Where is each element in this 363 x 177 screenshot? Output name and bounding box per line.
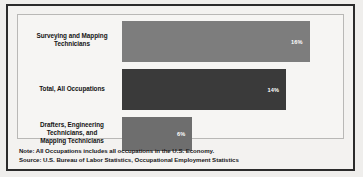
plot-area: Surveying and Mapping Technicians 16% To… (17, 14, 344, 139)
chart-figure: Surveying and Mapping Technicians 16% To… (6, 4, 355, 171)
bar-category-label-line: Mapping Technicians (40, 137, 104, 144)
source-text: Source: U.S. Bureau of Labor Statistics,… (19, 155, 339, 164)
bar-row: Surveying and Mapping Technicians 16% (18, 21, 343, 62)
bar-value-label: 14% (268, 87, 280, 93)
bar-value-label: 6% (177, 131, 185, 137)
bar-category-label-line: Technicians, and (47, 129, 98, 136)
bar-category-label: Drafters, Engineering Technicians, and M… (22, 121, 122, 146)
note-text: Note: All Occupations includes all occup… (19, 146, 339, 155)
bar-row: Total, All Occupations 14% (18, 69, 343, 110)
bar-value-label: 16% (291, 39, 303, 45)
bar-category-label-line: Total, All Occupations (39, 85, 105, 92)
bar-surveying-and-mapping-technicians: 16% (122, 21, 310, 62)
bar-category-label-line: Surveying and Mapping (36, 32, 107, 39)
bar-category-label: Surveying and Mapping Technicians (22, 32, 122, 48)
chart-footnotes: Note: All Occupations includes all occup… (19, 146, 339, 164)
bar-total-all-occupations: 14% (122, 69, 286, 110)
bar-category-label-line: Drafters, Engineering (40, 121, 104, 128)
bar-category-label: Total, All Occupations (22, 85, 122, 93)
bar-category-label-line: Technicians (54, 40, 90, 47)
